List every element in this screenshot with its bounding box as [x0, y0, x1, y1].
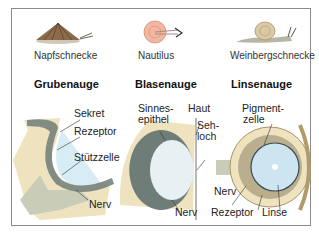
- limpet-icon: [36, 23, 93, 44]
- label-linse: Linse: [262, 207, 287, 218]
- species-label-limpet: Napfschnecke: [34, 50, 97, 61]
- label-sekret: Sekret: [74, 108, 104, 119]
- lens-eye-illustration: [216, 124, 310, 210]
- label-nerv-vesicle: Nerv: [175, 207, 197, 218]
- vesicle-eye-illustration: [120, 118, 205, 220]
- nautilus-icon: [144, 21, 182, 43]
- species-label-nautilus: Nautilus: [138, 50, 174, 61]
- snail-icon: [236, 22, 296, 43]
- species-label-snail: Weinbergschnecke: [230, 50, 315, 61]
- label-nerv-lens: Nerv: [214, 186, 236, 197]
- label-stuetzzelle: Stützzelle: [74, 152, 120, 163]
- label-haut: Haut: [188, 103, 210, 114]
- label-nerv-pit: Nerv: [89, 199, 111, 210]
- heading-vesicle-eye: Blasenauge: [135, 78, 197, 90]
- heading-pit-eye: Grubenauge: [34, 78, 99, 90]
- heading-lens-eye: Linsenauge: [231, 78, 292, 90]
- label-sinnesepithel-2: epithel: [138, 114, 169, 125]
- label-pigmentzelle-2: zelle: [243, 114, 265, 125]
- label-rezeptor-pit: Rezeptor: [74, 126, 117, 137]
- label-sehloch-2: loch: [197, 131, 216, 142]
- label-rezeptor-lens: Rezeptor: [211, 207, 254, 218]
